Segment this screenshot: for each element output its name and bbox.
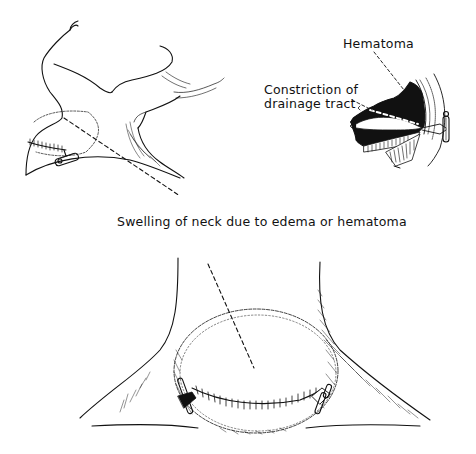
swelling-label: Swelling of neck due to edema or hematom…	[117, 215, 407, 229]
constriction-label-line1: Constriction of	[264, 83, 358, 97]
constriction-label-line2: drainage tract	[264, 97, 358, 111]
hematoma-label: Hematoma	[343, 37, 414, 51]
side-view-panel	[26, 21, 224, 196]
front-view-panel	[80, 258, 430, 434]
swelling-area	[174, 309, 338, 433]
medical-illustration: Hematoma Constriction of drainage tract …	[0, 0, 476, 454]
left-drain-icon	[177, 378, 196, 415]
cross-section-panel	[350, 52, 449, 168]
constriction-label: Constriction of drainage tract	[264, 83, 358, 111]
